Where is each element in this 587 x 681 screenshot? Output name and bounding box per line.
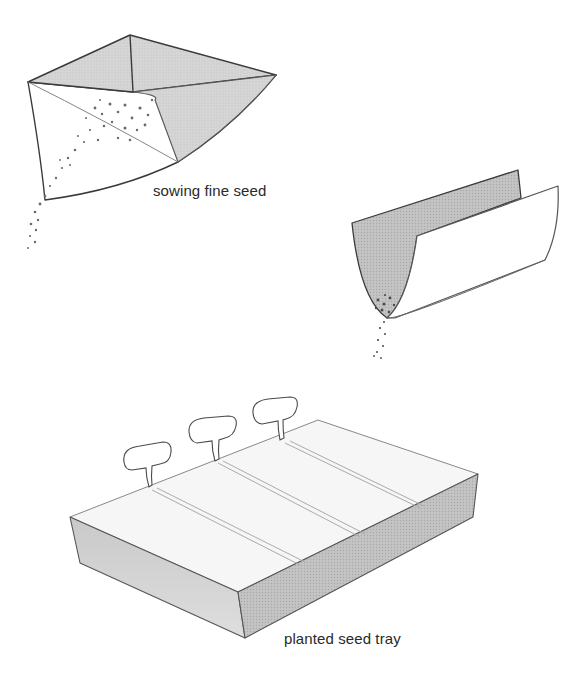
illustration-canvas: sowing fine seed planted seed tray: [0, 0, 587, 681]
caption-sowing-fine-seed: sowing fine seed: [153, 182, 266, 199]
folded-paper-drawing: [352, 170, 558, 359]
caption-planted-seed-tray: planted seed tray: [284, 630, 401, 647]
envelope-drawing: [27, 35, 276, 249]
seed-tray-drawing: [70, 397, 478, 638]
